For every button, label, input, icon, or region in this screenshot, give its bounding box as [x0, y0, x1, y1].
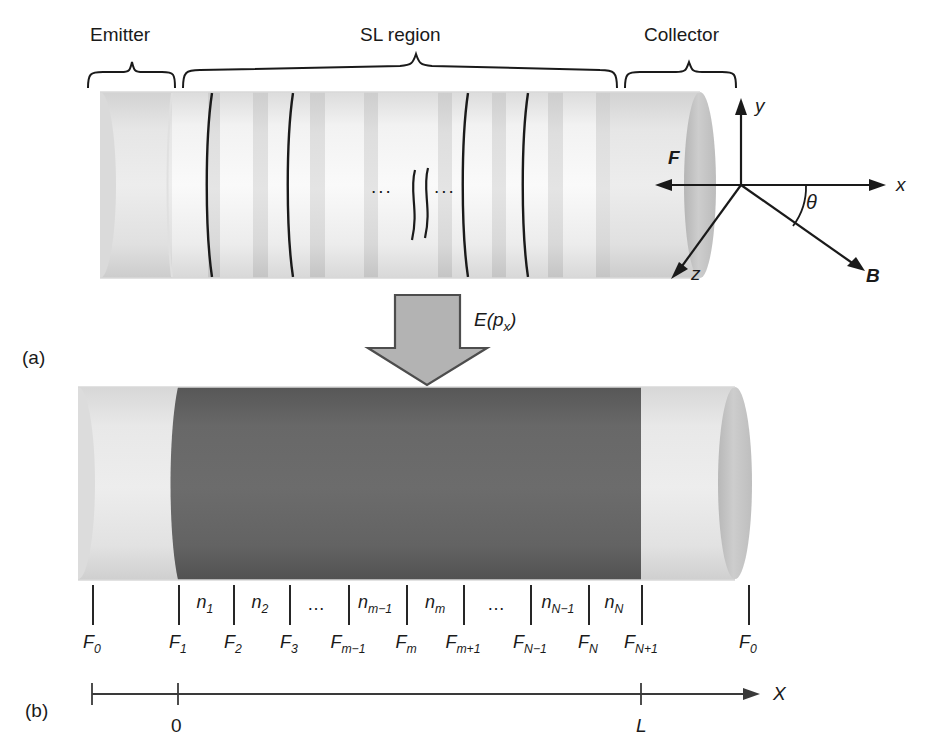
field-label-base: F: [624, 632, 635, 652]
well-label-base: n: [197, 592, 207, 612]
boundary-tick: [233, 585, 235, 625]
x-axis-tick-origin: 0: [171, 716, 182, 735]
axis-label-z: z: [691, 264, 701, 283]
field-label-F0-left: F0: [83, 632, 101, 656]
field-label-F0-right: F0: [739, 632, 757, 656]
well-label-base: n: [605, 592, 615, 612]
boundary-tick: [289, 585, 291, 625]
boundary-tick: [530, 585, 532, 625]
brace-collector: [625, 62, 736, 88]
panel-b-end-cap: [718, 387, 752, 579]
well-label-base: n: [542, 592, 552, 612]
field-label-FN: FN: [578, 632, 598, 656]
boundary-tick: [748, 585, 750, 625]
well-label-sub: m−1: [368, 602, 392, 616]
field-label-sub: m: [406, 642, 416, 656]
well-label-sub: N: [615, 602, 624, 616]
field-label-Fm+1: Fm+1: [445, 632, 480, 656]
field-label-sub: m+1: [456, 642, 480, 656]
x-axis-tick-length: L: [636, 716, 647, 735]
well-label-base: …: [487, 594, 507, 614]
field-label-base: F: [224, 632, 235, 652]
field-label-Fm-1: Fm−1: [330, 632, 365, 656]
well-label-nN: nN: [605, 592, 624, 616]
field-label-base: F: [83, 632, 94, 652]
figure-root: Emitter SL region Collector ... ... y x …: [0, 0, 927, 754]
field-label-base: F: [445, 632, 456, 652]
well-label-base: n: [252, 592, 262, 612]
well-label-dots-right: …: [487, 594, 507, 615]
brace-sl-region: [183, 54, 617, 88]
field-label-base: F: [395, 632, 406, 652]
well-label-nm-1: nm−1: [358, 592, 392, 616]
well-label-nm: nm: [425, 592, 445, 616]
transition-arrow-label: E(px): [474, 310, 516, 334]
break-dots-right: ...: [434, 177, 456, 196]
field-label-sub: N: [589, 642, 598, 656]
field-label-Fm: Fm: [395, 632, 416, 656]
well-label-base: n: [425, 592, 435, 612]
angle-label-theta: θ: [806, 192, 817, 212]
field-label-F3: F3: [280, 632, 298, 656]
panel-b-tube: [61, 387, 735, 580]
field-label-sub: 2: [235, 642, 242, 656]
well-label-sub: m: [435, 602, 445, 616]
boundary-tick: [463, 585, 465, 625]
boundary-tick: [178, 585, 180, 625]
axis-label-y: y: [755, 96, 765, 115]
well-label-base: n: [358, 592, 368, 612]
field-label-sub: 3: [291, 642, 298, 656]
well-label-n1: n1: [197, 592, 214, 616]
field-label-F1: F1: [169, 632, 187, 656]
field-label-FN+1: FN+1: [624, 632, 658, 656]
well-label-sub: 1: [207, 602, 214, 616]
boundary-tick: [406, 585, 408, 625]
field-label-F2: F2: [224, 632, 242, 656]
field-label-sub: N−1: [524, 642, 547, 656]
field-label-base: F: [513, 632, 524, 652]
well-label-n2: n2: [252, 592, 269, 616]
boundary-tick: [588, 585, 590, 625]
boundary-tick: [92, 585, 94, 625]
field-label-base: F: [330, 632, 341, 652]
well-label-sub: N−1: [552, 602, 575, 616]
field-label-base: F: [169, 632, 180, 652]
x-axis-graphic: [0, 670, 927, 720]
field-label-sub: 0: [750, 642, 757, 656]
well-label-sub: 2: [262, 602, 269, 616]
panel-b-graphic: [0, 375, 927, 605]
brace-emitter: [88, 62, 175, 88]
label-collector: Collector: [644, 25, 719, 44]
transition-label-base: E(p: [474, 309, 504, 330]
label-sl-region: SL region: [360, 25, 441, 44]
transition-label-close: ): [510, 309, 516, 330]
field-label-sub: 1: [180, 642, 187, 656]
boundary-tick: [348, 585, 350, 625]
field-label-FN-1: FN−1: [513, 632, 547, 656]
vector-label-b: B: [866, 266, 880, 285]
well-label-base: …: [307, 594, 327, 614]
well-label-dots-left: …: [307, 594, 327, 615]
field-label-base: F: [280, 632, 291, 652]
panel-b-tag: (b): [25, 700, 48, 722]
break-dots-left: ...: [371, 177, 393, 196]
vector-label-f: F: [668, 148, 680, 167]
field-label-base: F: [578, 632, 589, 652]
boundary-tick: [641, 585, 643, 625]
x-axis-label: X: [773, 684, 786, 703]
axis-label-x: x: [896, 175, 906, 194]
field-label-sub: N+1: [635, 642, 658, 656]
field-label-sub: m−1: [341, 642, 365, 656]
well-label-nN-1: nN−1: [542, 592, 575, 616]
field-label-sub: 0: [94, 642, 101, 656]
label-emitter: Emitter: [90, 25, 150, 44]
field-label-base: F: [739, 632, 750, 652]
